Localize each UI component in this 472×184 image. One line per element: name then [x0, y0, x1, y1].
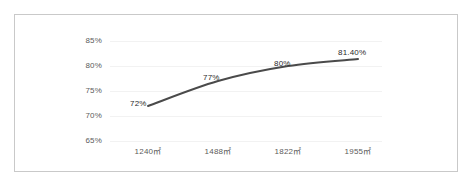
series-line-path — [148, 59, 358, 106]
data-label-point-3: 80% — [274, 59, 291, 68]
x-axis-tick-1488: 1488㎡ — [183, 145, 253, 156]
chart-plot-area: 85% 80% 75% 70% 65% 72% 77% 80% 81.40% 1… — [0, 0, 472, 184]
data-label-point-4: 81.40% — [338, 48, 366, 57]
x-axis-tick-1955: 1955㎡ — [323, 145, 393, 156]
series-line-group — [0, 0, 472, 184]
data-label-point-1: 72% — [130, 99, 147, 108]
x-axis-tick-1240: 1240㎡ — [113, 145, 183, 156]
data-label-point-2: 77% — [203, 73, 220, 82]
x-axis-tick-1822: 1822㎡ — [253, 145, 323, 156]
